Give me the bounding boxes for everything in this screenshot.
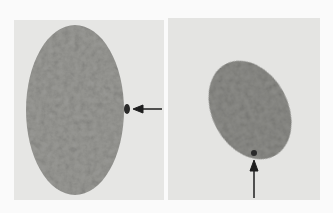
nucleus-left [26,25,124,195]
nucleus-right [192,46,308,174]
panel-left-svg [14,20,164,200]
dark-spot-left [124,104,130,114]
panel-right-svg [168,18,320,200]
arrow-left-icon [133,105,162,113]
dark-spot-right [251,150,257,156]
micrograph-panel-left [14,20,164,200]
micrograph-panel-right [168,18,320,200]
arrow-up-icon [250,160,258,198]
